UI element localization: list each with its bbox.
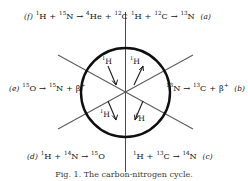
reaction-body-d: 1H + 14N → 15O (41, 151, 105, 161)
reaction-equation-c: 1H + 13C → 14N (c) (133, 152, 213, 161)
inner-label-hydrogen-bottom-left: 1H (100, 110, 110, 119)
reaction-equation-b: 13N → 13C + β+ (b) (166, 84, 245, 93)
reaction-body-e: 15O → 15N + β+ (22, 83, 85, 93)
reaction-equation-d: (d) 1H + 14N → 15O (27, 152, 105, 161)
arrow-top-left (108, 66, 118, 85)
reaction-tag-c: (c) (202, 152, 212, 161)
inner-label-hydrogen-top-left: 1H (102, 57, 112, 66)
inner-label-hydrogen-top-right: 1H (130, 57, 140, 66)
reaction-tag-d: (d) (27, 152, 38, 161)
reaction-equation-e: (e) 15O → 15N + β+ (9, 84, 85, 93)
arrow-top-right (134, 66, 143, 85)
reaction-body-f: 1H + 15N → 4He + 12C (36, 11, 128, 21)
reaction-equation-f: (f) 1H + 15N → 4He + 12C (24, 12, 128, 21)
reaction-tag-b: (b) (234, 84, 245, 93)
reaction-equation-a: 1H + 12C → 13N (a) (131, 12, 211, 21)
figure-canvas: (f) 1H + 15N → 4He + 12C 1H + 12C → 13N … (0, 0, 248, 181)
reaction-body-b: 13N → 13C + β+ (166, 83, 231, 93)
inner-label-hydrogen-bottom-right: 1H (135, 114, 145, 123)
reaction-body-a: 1H + 12C → 13N (131, 11, 198, 21)
reaction-tag-e: (e) (9, 84, 20, 93)
reaction-body-c: 1H + 13C → 14N (133, 151, 200, 161)
figure-caption: Fig. 1. The carbon-nitrogen cycle. (0, 170, 248, 181)
reaction-tag-f: (f) (24, 12, 33, 21)
reaction-tag-a: (a) (200, 12, 211, 21)
